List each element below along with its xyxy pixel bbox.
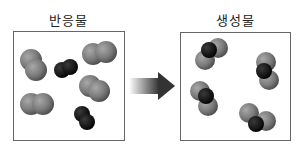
gray-diatomic-molecule (20, 49, 47, 81)
gray-diatomic-molecule (79, 75, 110, 102)
gray-diatomic-molecule (20, 93, 54, 115)
product-molecule (256, 52, 279, 90)
black-diatomic-molecule (74, 106, 95, 130)
gray-diatomic-molecule (82, 41, 117, 65)
product-molecule (190, 81, 218, 116)
product-molecule (195, 38, 228, 70)
reaction-diagram (0, 0, 302, 158)
product-molecule (239, 103, 276, 132)
black-diatomic-molecule (54, 59, 78, 78)
reaction-arrow-icon (129, 72, 175, 100)
